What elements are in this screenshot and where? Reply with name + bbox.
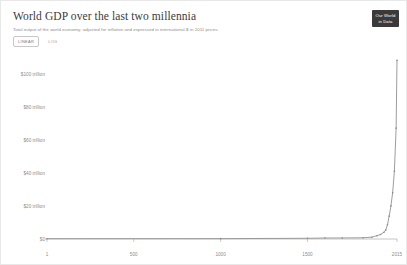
data-point: [307, 237, 309, 239]
chart-svg: [1, 53, 407, 249]
data-point: [396, 60, 398, 62]
data-point: [392, 192, 394, 194]
our-world-in-data-logo[interactable]: Our World in Data: [372, 10, 399, 27]
x-axis-tick-label: 500: [130, 252, 138, 257]
gdp-data-points: [46, 60, 398, 240]
log-scale-button[interactable]: LOG: [43, 36, 62, 47]
data-point: [362, 237, 364, 239]
chart-title: World GDP over the last two millennia: [13, 10, 343, 23]
data-point: [324, 237, 326, 239]
data-point: [383, 231, 385, 233]
data-point: [380, 234, 382, 236]
data-point: [387, 224, 389, 226]
x-axis-tick-marks: [47, 239, 397, 242]
axis-scale-toggle[interactable]: LINEAR LOG: [13, 36, 62, 47]
logo-line-2: in Data: [379, 19, 393, 25]
chart-subtitle: Total output of the world economy; adjus…: [13, 26, 343, 33]
data-point: [341, 237, 343, 239]
data-point: [220, 238, 222, 240]
plot-area: $0$20 trillion$40 trillion$60 trillion$8…: [1, 53, 407, 249]
linear-scale-button[interactable]: LINEAR: [13, 36, 39, 47]
gdp-line-series: [47, 60, 397, 238]
x-axis-tick-label: 1500: [302, 252, 312, 257]
data-point: [385, 229, 387, 231]
x-axis-tick-label: 1000: [215, 252, 225, 257]
data-point: [376, 235, 378, 237]
chart-header: World GDP over the last two millennia To…: [13, 10, 343, 33]
data-point: [46, 238, 48, 240]
data-point: [394, 170, 396, 172]
data-point: [371, 236, 373, 238]
x-axis-tick-label: 1: [46, 252, 49, 257]
chart-container: World GDP over the last two millennia To…: [0, 0, 407, 265]
x-axis-tick-label: 2015: [392, 252, 402, 257]
x-axis-labels: 1500100015002015: [1, 249, 407, 263]
data-point: [390, 205, 392, 207]
data-point: [395, 127, 397, 129]
data-point: [388, 215, 390, 217]
